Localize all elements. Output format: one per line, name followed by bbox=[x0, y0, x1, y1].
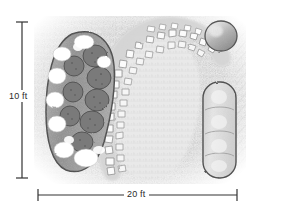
dimension-label-horizontal: 20 ft bbox=[124, 189, 149, 199]
landscape-plan-drawing bbox=[0, 0, 281, 218]
garden-plan-canvas: 10 ft 20 ft bbox=[0, 0, 281, 218]
rounded-rectangle-bed bbox=[203, 82, 236, 178]
round-shrub bbox=[205, 21, 237, 51]
kidney-planting-bed bbox=[46, 32, 114, 172]
dimension-label-vertical: 10 ft bbox=[7, 90, 30, 102]
